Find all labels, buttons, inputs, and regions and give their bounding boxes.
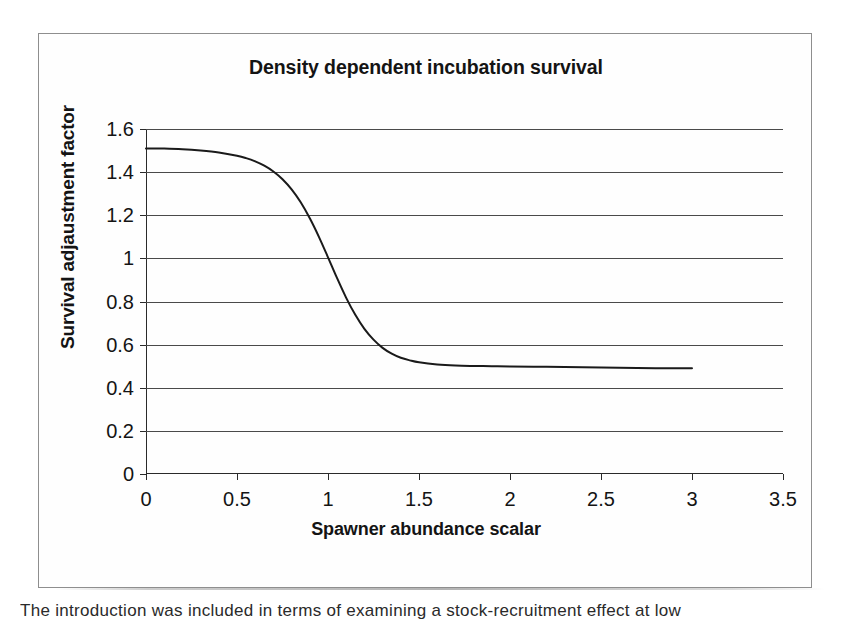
plot-area: 00.20.40.60.811.21.41.6 00.511.522.533.5 — [146, 129, 783, 474]
y-tick-label: 1 — [123, 247, 134, 270]
series-path-survival — [146, 148, 692, 368]
y-tick-label: 0.4 — [106, 376, 134, 399]
x-tick-label: 0.5 — [223, 488, 251, 511]
x-tick-mark — [510, 474, 511, 480]
x-tick-label: 3.5 — [769, 488, 797, 511]
x-tick-label: 2.5 — [587, 488, 615, 511]
chart-title: Density dependent incubation survival — [39, 56, 813, 79]
x-axis-title: Spawner abundance scalar — [39, 519, 813, 540]
x-tick-label: 3 — [686, 488, 697, 511]
x-tick-mark — [783, 474, 784, 480]
x-tick-mark — [237, 474, 238, 480]
x-tick-mark — [601, 474, 602, 480]
caption-text: The introduction was included in terms o… — [20, 604, 827, 621]
y-tick-label: 1.2 — [106, 204, 134, 227]
data-series-line — [146, 129, 783, 474]
x-tick-mark — [146, 474, 147, 480]
y-tick-label: 0.6 — [106, 333, 134, 356]
x-tick-label: 0 — [140, 488, 151, 511]
y-tick-label: 1.4 — [106, 161, 134, 184]
x-tick-mark — [419, 474, 420, 480]
x-tick-mark — [328, 474, 329, 480]
x-tick-label: 1.5 — [405, 488, 433, 511]
x-tick-label: 1 — [322, 488, 333, 511]
x-tick-mark — [692, 474, 693, 480]
figure-frame: Density dependent incubation survival Su… — [38, 33, 812, 588]
page-caption-remnant: The introduction was included in terms o… — [20, 604, 827, 625]
y-tick-label: 0 — [123, 463, 134, 486]
x-tick-label: 2 — [504, 488, 515, 511]
y-tick-label: 0.2 — [106, 419, 134, 442]
y-tick-label: 1.6 — [106, 118, 134, 141]
y-tick-label: 0.8 — [106, 290, 134, 313]
scan-edge-artifact — [55, 588, 825, 590]
y-axis-title: Survival adjaustment factor — [57, 77, 79, 377]
